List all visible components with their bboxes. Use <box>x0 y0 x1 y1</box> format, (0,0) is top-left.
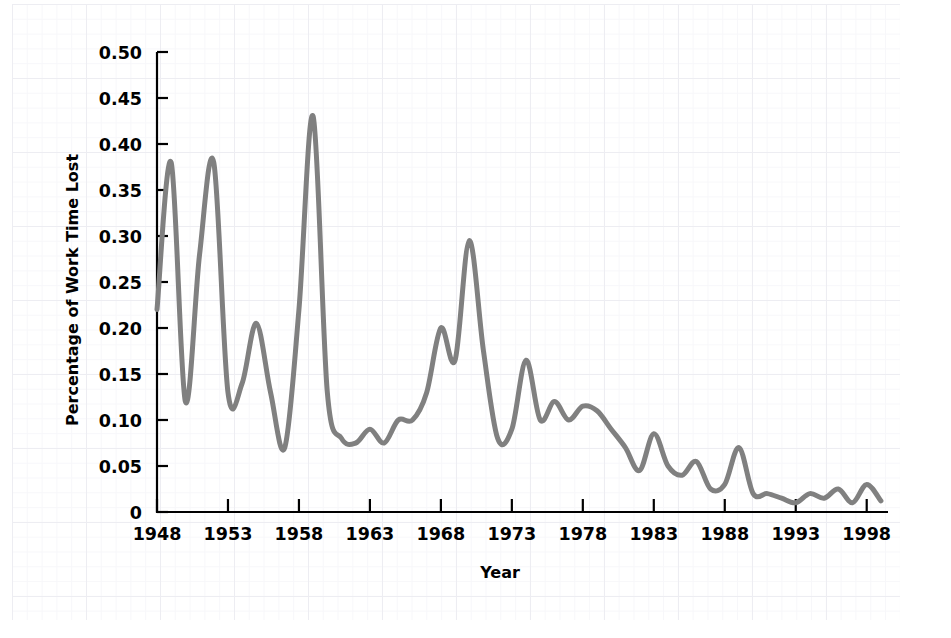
y-tick-label: 0.35 <box>99 181 142 201</box>
y-tick-label: 0 <box>130 503 142 523</box>
y-axis-title: Percentage of Work Time Lost <box>63 154 82 426</box>
x-tick-label: 1978 <box>558 524 607 544</box>
chart-figure: 00.050.100.150.200.250.300.350.400.450.5… <box>0 0 951 638</box>
y-tick-label: 0.10 <box>99 411 142 431</box>
y-tick-label: 0.15 <box>99 365 142 385</box>
y-tick-label: 0.05 <box>99 457 142 477</box>
y-tick-label: 0.40 <box>99 135 142 155</box>
y-axis-tick-labels: 00.050.100.150.200.250.300.350.400.450.5… <box>99 43 142 523</box>
x-axis-ticks <box>157 499 867 512</box>
x-tick-label: 1963 <box>346 524 395 544</box>
y-tick-label: 0.30 <box>99 227 142 247</box>
x-tick-label: 1988 <box>700 524 749 544</box>
x-tick-label: 1993 <box>771 524 820 544</box>
x-axis-title: Year <box>479 563 520 582</box>
data-line <box>157 116 881 503</box>
x-tick-label: 1958 <box>275 524 324 544</box>
x-axis-tick-labels: 1948195319581963196819731978198319881993… <box>133 524 891 544</box>
chart-axes <box>157 52 888 512</box>
line-chart: 00.050.100.150.200.250.300.350.400.450.5… <box>0 0 951 638</box>
y-tick-label: 0.45 <box>99 89 142 109</box>
y-tick-label: 0.50 <box>99 43 142 63</box>
x-tick-label: 1953 <box>204 524 253 544</box>
data-series-group <box>157 116 881 503</box>
x-tick-label: 1968 <box>417 524 466 544</box>
x-tick-label: 1973 <box>487 524 536 544</box>
y-tick-label: 0.20 <box>99 319 142 339</box>
y-tick-label: 0.25 <box>99 273 142 293</box>
x-tick-label: 1948 <box>133 524 182 544</box>
x-tick-label: 1983 <box>629 524 678 544</box>
x-tick-label: 1998 <box>842 524 891 544</box>
